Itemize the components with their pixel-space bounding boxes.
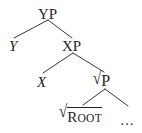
node-xp: XP [62, 38, 81, 54]
root-wrap: √ROOT [59, 106, 102, 125]
ellipsis-label: … [120, 113, 135, 128]
radical-icon: √ [93, 70, 101, 88]
syntax-tree-figure: YP Y XP X √P √ROOT … [0, 0, 142, 133]
node-root-label: ROOT [67, 107, 102, 125]
node-x: X [37, 74, 46, 90]
edge-yp-to-y [14, 20, 48, 38]
edge-xp-to-x [43, 53, 73, 73]
node-ellipsis: … [120, 112, 135, 128]
edge-yp-to-xp [48, 20, 72, 38]
edge-rootp-to-root [83, 89, 105, 105]
node-xp-label: XP [62, 39, 81, 54]
node-y: Y [9, 38, 17, 54]
node-yp: YP [38, 6, 57, 22]
root-phrase-wrap: √P [93, 73, 110, 89]
node-root-phrase-label: P [101, 73, 110, 89]
node-root-label-first: R [67, 109, 77, 125]
radical-icon: √ [59, 103, 67, 121]
node-y-label: Y [9, 39, 17, 54]
edge-rootp-to-dots [105, 89, 128, 106]
node-root: √ROOT [59, 105, 102, 125]
node-root-label-rest: OOT [77, 112, 102, 124]
node-yp-label: YP [38, 7, 57, 22]
node-root-phrase: √P [93, 72, 110, 89]
node-x-label: X [37, 75, 46, 90]
